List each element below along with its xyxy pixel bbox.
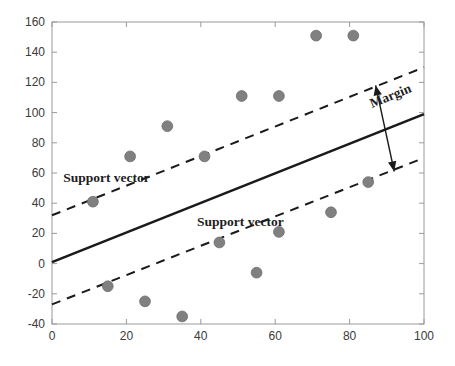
x-tick-label: 80 <box>343 329 357 343</box>
data-point <box>125 151 136 162</box>
data-point <box>88 196 99 207</box>
chart-figure: 020406080100 160140120100806040200-20-40… <box>0 0 455 366</box>
data-point <box>251 267 262 278</box>
data-point <box>140 296 151 307</box>
y-tick-label: 0 <box>38 257 45 271</box>
y-tick-label: -20 <box>28 287 46 301</box>
x-tick-label: 60 <box>269 329 283 343</box>
x-tick-label: 100 <box>414 329 434 343</box>
data-point <box>199 151 210 162</box>
y-tick-label: 140 <box>25 45 45 59</box>
y-tick-label: 40 <box>32 196 46 210</box>
upper-margin-line <box>52 67 424 215</box>
data-point <box>348 30 359 41</box>
y-tick-label: 100 <box>25 106 45 120</box>
y-tick-label: 160 <box>25 15 45 29</box>
data-point <box>162 121 173 132</box>
y-tick-label: 60 <box>32 166 46 180</box>
data-point <box>236 91 247 102</box>
data-point <box>363 177 374 188</box>
data-point <box>177 311 188 322</box>
support-vector-upper-label: Support vector <box>63 170 150 185</box>
margin-label: Margin <box>367 80 413 110</box>
data-point <box>274 91 285 102</box>
annotations: Support vectorSupport vectorMargin <box>63 80 414 228</box>
data-point <box>311 30 322 41</box>
support-vector-lower-label: Support vector <box>197 214 284 229</box>
y-tick-label: -40 <box>28 317 46 331</box>
x-tick-label: 40 <box>194 329 208 343</box>
data-point <box>326 207 337 218</box>
svm-margin-scatter-plot: 020406080100 160140120100806040200-20-40… <box>0 0 455 366</box>
x-tick-label: 0 <box>49 329 56 343</box>
y-tick-label: 80 <box>32 136 46 150</box>
decision-boundary-line <box>52 114 424 262</box>
y-tick-label: 20 <box>32 226 46 240</box>
x-tick-label: 20 <box>120 329 134 343</box>
y-tick-label: 120 <box>25 75 45 89</box>
data-point <box>214 237 225 248</box>
data-point <box>102 281 113 292</box>
